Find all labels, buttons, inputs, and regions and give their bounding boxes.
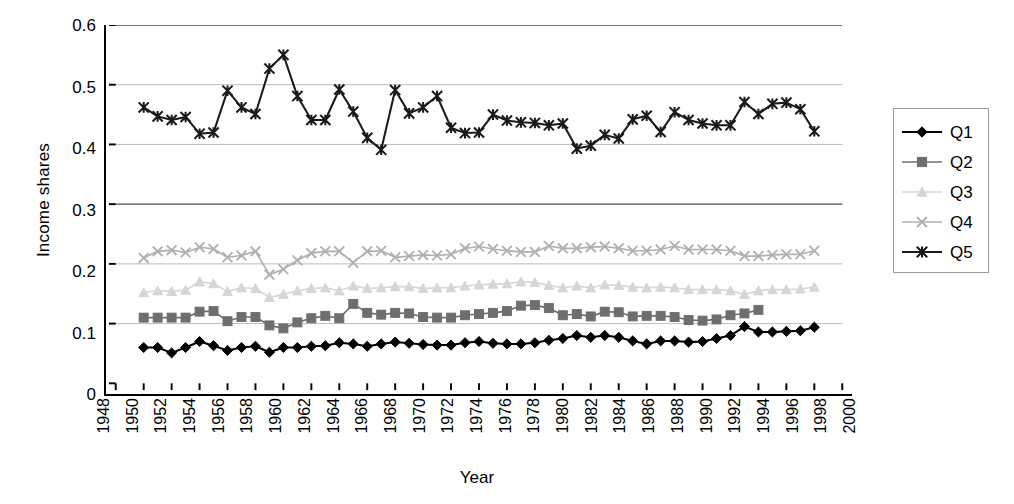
- legend-item-q2[interactable]: Q2: [894, 147, 988, 177]
- x-axis-title: Year: [104, 468, 850, 488]
- y-tick-label: 0.3: [36, 202, 96, 219]
- series-q5: [139, 50, 820, 156]
- x-tick-label: 1954: [182, 398, 198, 458]
- legend-item-q5[interactable]: Q5: [894, 237, 988, 267]
- legend-key-q1-icon: [900, 123, 944, 141]
- x-tick-label: 1950: [125, 398, 141, 458]
- y-tick-label: 0: [36, 386, 96, 403]
- x-tick-label: 1988: [670, 398, 686, 458]
- legend-label: Q2: [950, 154, 973, 171]
- legend-label: Q3: [950, 184, 973, 201]
- x-tick-label: 1964: [326, 398, 342, 458]
- x-tick-label: 1984: [612, 398, 628, 458]
- plot-area: [104, 25, 852, 396]
- x-tick-label: 1960: [268, 398, 284, 458]
- x-tick-label: 1970: [412, 398, 428, 458]
- x-tick-label: 1948: [96, 398, 112, 458]
- series-q4: [139, 241, 819, 279]
- x-tick-label: 1968: [383, 398, 399, 458]
- chart-figure: Income shares 00.10.20.30.40.50.6 194819…: [0, 0, 1014, 504]
- x-tick-label: 1962: [297, 398, 313, 458]
- legend-label: Q4: [950, 214, 973, 231]
- y-tick-label: 0.4: [36, 140, 96, 157]
- x-tick-label: 1980: [555, 398, 571, 458]
- legend-item-q4[interactable]: Q4: [894, 207, 988, 237]
- x-tick-label: 1958: [239, 398, 255, 458]
- y-axis-tick-labels: 00.10.20.30.40.50.6: [22, 25, 96, 394]
- legend-item-q3[interactable]: Q3: [894, 177, 988, 207]
- chart-legend: Q1Q2Q3Q4Q5: [893, 108, 989, 273]
- x-tick-label: 1952: [153, 398, 169, 458]
- x-tick-label: 1982: [584, 398, 600, 458]
- x-tick-label: 1976: [498, 398, 514, 458]
- legend-key-q5-icon: [900, 243, 944, 261]
- y-tick-label: 0.6: [36, 17, 96, 34]
- series-q2: [139, 299, 763, 332]
- x-tick-label: 1956: [211, 398, 227, 458]
- legend-label: Q5: [950, 244, 973, 261]
- x-tick-label: 1998: [813, 398, 829, 458]
- x-tick-label: 1986: [641, 398, 657, 458]
- y-tick-label: 0.5: [36, 79, 96, 96]
- x-axis-tick-labels: 1948195019521954195619581960196219641966…: [104, 396, 864, 460]
- x-tick-label: 1992: [727, 398, 743, 458]
- x-tick-label: 1966: [354, 398, 370, 458]
- legend-key-q4-icon: [900, 213, 944, 231]
- series-q1: [139, 322, 820, 358]
- legend-key-q3-icon: [900, 183, 944, 201]
- x-tick-label: 1990: [699, 398, 715, 458]
- x-tick-label: 1972: [440, 398, 456, 458]
- x-tick-label: 2000: [842, 398, 858, 458]
- y-tick-label: 0.1: [36, 325, 96, 342]
- legend-item-q1[interactable]: Q1: [894, 117, 988, 147]
- chart-canvas: [106, 25, 852, 394]
- legend-key-q2-icon: [900, 153, 944, 171]
- series-q3: [139, 277, 819, 302]
- x-tick-label: 1974: [469, 398, 485, 458]
- x-tick-label: 1978: [526, 398, 542, 458]
- y-tick-label: 0.2: [36, 263, 96, 280]
- x-tick-label: 1996: [785, 398, 801, 458]
- x-tick-label: 1994: [756, 398, 772, 458]
- legend-label: Q1: [950, 124, 973, 141]
